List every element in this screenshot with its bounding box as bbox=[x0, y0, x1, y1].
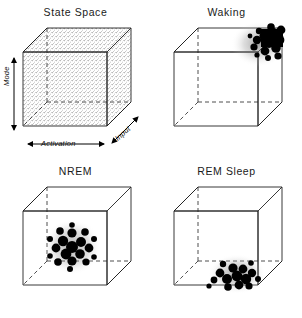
cube-rem bbox=[151, 159, 302, 318]
cluster-waking bbox=[231, 21, 287, 67]
axis-label-activation: Activation bbox=[41, 139, 76, 148]
panel-state-space: State Space bbox=[0, 0, 151, 159]
cluster-nrem bbox=[43, 219, 101, 275]
cube-state-space: Mode Activation Input bbox=[0, 0, 151, 159]
cluster-rem bbox=[206, 254, 266, 294]
cube-svg-state-space bbox=[0, 0, 151, 159]
cube-svg-rem bbox=[151, 159, 302, 318]
panel-waking: Waking bbox=[151, 0, 302, 159]
cube-svg-nrem bbox=[0, 159, 151, 318]
cube-waking bbox=[151, 0, 302, 159]
cube-svg-waking bbox=[151, 0, 302, 159]
panel-nrem: NREM bbox=[0, 159, 151, 318]
aim-state-space-figure: State Space bbox=[0, 0, 302, 318]
cube-nrem bbox=[0, 159, 151, 318]
axis-label-mode: Mode bbox=[2, 66, 11, 86]
panel-rem: REM Sleep bbox=[151, 159, 302, 318]
